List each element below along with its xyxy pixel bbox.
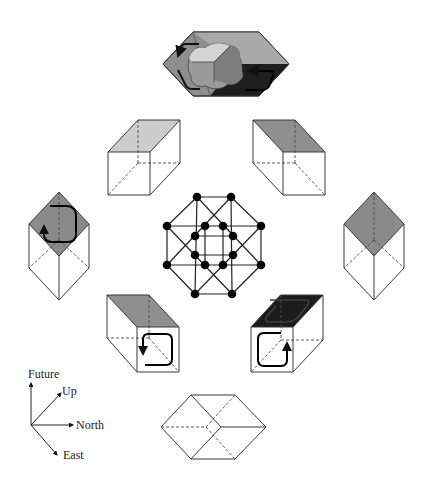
lower-left-cube bbox=[107, 295, 179, 372]
axes-legend: Future Up North East bbox=[28, 367, 104, 462]
axis-label-up: Up bbox=[62, 384, 77, 398]
axis-label-east: East bbox=[63, 448, 84, 462]
tesseract-graph bbox=[163, 193, 266, 299]
bottom-hexagon bbox=[161, 395, 266, 459]
top-hexagon-panel bbox=[163, 32, 289, 96]
left-cube bbox=[29, 192, 89, 300]
right-cube bbox=[344, 192, 404, 300]
axis-label-future: Future bbox=[28, 367, 59, 381]
lower-right-cube bbox=[251, 295, 323, 372]
upper-right-cube bbox=[253, 120, 325, 195]
upper-left-cube bbox=[108, 120, 180, 195]
axis-label-north: North bbox=[76, 418, 104, 432]
tesseract-diagram: Future Up North East bbox=[0, 0, 434, 484]
front-loop-arrow bbox=[143, 334, 172, 365]
